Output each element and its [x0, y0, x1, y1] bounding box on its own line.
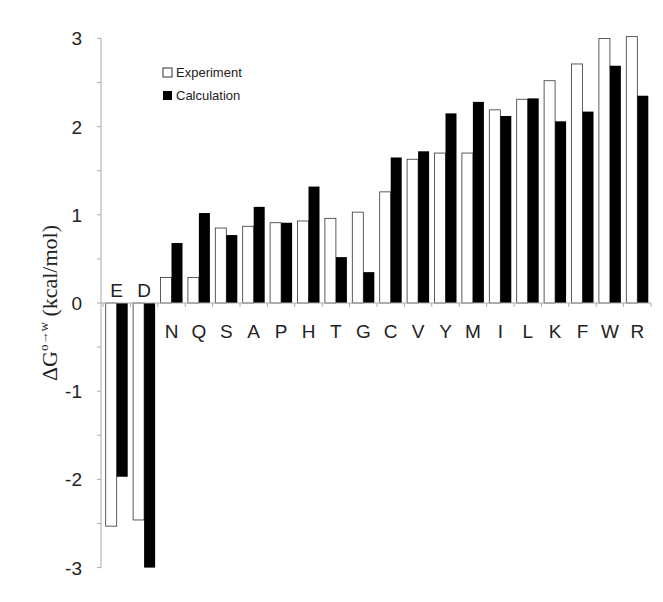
category-label-S: S — [220, 321, 233, 342]
bar-calculation-Q — [199, 213, 210, 303]
category-label-L: L — [522, 321, 533, 342]
y-tick-label: -1 — [65, 381, 82, 402]
legend-swatch-experiment — [163, 68, 172, 77]
legend-swatch-calculation — [163, 91, 172, 100]
category-label-I: I — [498, 321, 503, 342]
category-label-T: T — [330, 321, 342, 342]
bar-calculation-P — [281, 223, 292, 303]
bar-experiment-R — [626, 37, 637, 303]
bar-experiment-Q — [188, 277, 199, 303]
category-label-N: N — [165, 321, 179, 342]
bar-experiment-C — [380, 192, 391, 303]
bar-calculation-S — [226, 235, 237, 303]
y-axis-title: ΔGo→w (kcal/mol) — [36, 225, 62, 381]
bar-calculation-R — [637, 96, 648, 303]
x-axis — [101, 303, 651, 307]
bar-experiment-V — [407, 159, 418, 303]
bar-experiment-A — [243, 226, 254, 303]
bar-calculation-T — [336, 257, 347, 303]
bar-calculation-A — [254, 207, 265, 303]
category-label-F: F — [577, 321, 589, 342]
bar-experiment-E — [106, 303, 117, 526]
y-tick-label: -3 — [65, 558, 82, 579]
bar-experiment-W — [599, 38, 610, 303]
category-label-E: E — [110, 280, 123, 301]
bar-experiment-I — [489, 110, 500, 303]
category-label-K: K — [549, 321, 562, 342]
bar-experiment-F — [572, 64, 583, 303]
bars — [106, 37, 649, 568]
svg-text:ΔGo→w (kcal/mol): ΔGo→w (kcal/mol) — [36, 225, 62, 381]
bar-calculation-K — [555, 121, 566, 303]
bar-calculation-M — [473, 102, 484, 303]
bar-experiment-D — [133, 303, 144, 520]
bar-experiment-T — [325, 218, 336, 303]
category-label-D: D — [137, 280, 151, 301]
bar-experiment-P — [270, 223, 281, 303]
category-label-Q: Q — [192, 321, 207, 342]
legend-label-calculation: Calculation — [176, 88, 240, 103]
bar-calculation-L — [528, 98, 539, 303]
bar-calculation-E — [117, 303, 128, 477]
bar-calculation-W — [610, 66, 621, 303]
bar-calculation-C — [391, 157, 402, 303]
bar-calculation-D — [144, 303, 155, 568]
bar-calculation-I — [500, 116, 511, 303]
y-axis: -3-2-10123 — [65, 28, 101, 578]
y-tick-label: 0 — [71, 293, 82, 314]
bar-experiment-Y — [435, 153, 446, 303]
ylabel-main: ΔG — [37, 351, 62, 381]
ylabel-unit: (kcal/mol) — [37, 225, 62, 322]
category-label-H: H — [302, 321, 316, 342]
bar-calculation-F — [583, 112, 594, 303]
category-label-Y: Y — [439, 321, 452, 342]
bar-calculation-N — [172, 243, 183, 303]
bar-calculation-V — [418, 151, 429, 303]
bar-experiment-L — [517, 99, 528, 303]
y-tick-label: -2 — [65, 469, 82, 490]
category-label-C: C — [384, 321, 398, 342]
category-label-G: G — [356, 321, 371, 342]
category-label-M: M — [465, 321, 481, 342]
bar-experiment-S — [215, 228, 226, 303]
ylabel-sup: o→w — [36, 321, 51, 351]
category-label-P: P — [275, 321, 288, 342]
category-label-W: W — [601, 321, 619, 342]
category-label-V: V — [412, 321, 425, 342]
legend: Experiment Calculation — [163, 65, 242, 103]
bar-experiment-K — [544, 81, 555, 303]
bar-experiment-H — [298, 221, 309, 303]
bar-calculation-H — [309, 187, 320, 303]
y-tick-label: 3 — [71, 28, 82, 49]
bar-calculation-Y — [446, 113, 457, 303]
category-label-R: R — [630, 321, 644, 342]
category-label-A: A — [247, 321, 260, 342]
bar-chart: -3-2-10123 EDNQSAPHTGCVYMILKFWR Experime… — [0, 0, 663, 602]
y-tick-label: 1 — [71, 205, 82, 226]
y-tick-label: 2 — [71, 117, 82, 138]
bar-calculation-G — [363, 272, 374, 303]
bar-experiment-N — [161, 277, 172, 303]
bar-experiment-M — [462, 153, 473, 303]
legend-label-experiment: Experiment — [176, 65, 242, 80]
bar-experiment-G — [352, 212, 363, 303]
